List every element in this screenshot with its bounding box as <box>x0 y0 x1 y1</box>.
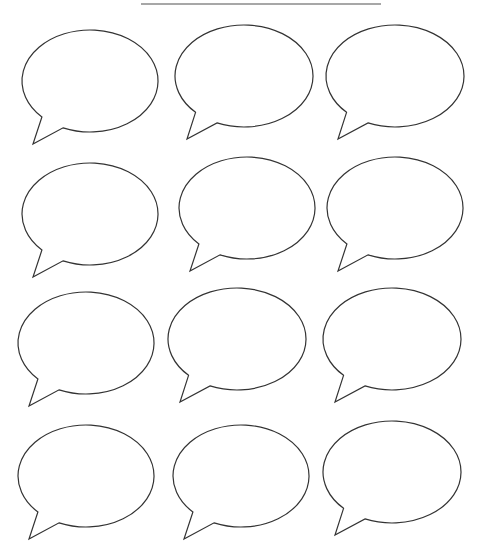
speech-bubble-3 <box>326 25 464 139</box>
speech-bubble-12 <box>323 421 461 535</box>
speech-bubble-worksheet <box>0 0 482 555</box>
speech-bubble-5 <box>179 157 315 271</box>
speech-bubble-9 <box>323 288 461 402</box>
speech-bubble-grid <box>18 25 464 539</box>
speech-bubble-11 <box>173 425 309 539</box>
speech-bubble-10 <box>18 425 154 539</box>
speech-bubble-2 <box>175 25 313 139</box>
speech-bubble-4 <box>22 163 158 277</box>
speech-bubble-8 <box>168 288 306 402</box>
speech-bubble-7 <box>18 292 154 406</box>
speech-bubble-6 <box>327 157 463 271</box>
speech-bubble-1 <box>22 30 158 144</box>
